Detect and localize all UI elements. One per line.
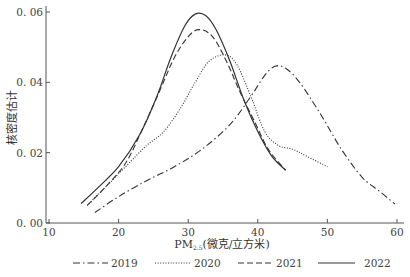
y-axis-title: 核密度估计 — [5, 90, 19, 145]
kde-line-chart: 0. 000. 020. 040. 06 102030405060 核密度估计 … — [0, 0, 410, 277]
x-tick-label: 60 — [390, 226, 403, 238]
x-tick-label: 40 — [251, 226, 264, 238]
y-tick-label: 0. 04 — [16, 76, 43, 88]
x-ticks: 102030405060 — [42, 219, 403, 238]
legend-item-2020: 2020 — [155, 257, 221, 269]
legend: 2019 2020 2021 2022 — [73, 257, 391, 269]
axes: 0. 000. 020. 040. 06 102030405060 — [16, 6, 404, 238]
y-ticks: 0. 000. 020. 040. 06 — [16, 6, 50, 229]
x-axis-title-sub: 2.5 — [193, 244, 203, 251]
legend-label: 2021 — [276, 257, 303, 269]
legend-label: 2019 — [111, 257, 138, 269]
legend-item-2022: 2022 — [318, 257, 391, 269]
x-tick-label: 50 — [321, 226, 334, 238]
x-axis-title-main: PM — [174, 238, 193, 251]
x-tick-label: 20 — [112, 226, 125, 238]
x-tick-label: 10 — [42, 226, 55, 238]
series-lines — [81, 13, 395, 212]
x-tick-label: 30 — [182, 226, 195, 238]
series-line-2019 — [95, 66, 395, 213]
x-axis-title-unit: (微克/立方米) — [202, 237, 269, 251]
legend-item-2021: 2021 — [238, 257, 303, 269]
y-tick-label: 0. 00 — [16, 217, 43, 229]
legend-label: 2020 — [194, 257, 221, 269]
y-tick-label: 0. 02 — [16, 147, 43, 159]
series-line-2021 — [87, 30, 285, 206]
legend-label: 2022 — [364, 257, 391, 269]
y-tick-label: 0. 06 — [16, 6, 43, 18]
legend-item-2019: 2019 — [73, 257, 138, 269]
series-line-2020 — [87, 55, 327, 206]
x-axis-title: PM2.5(微克/立方米) — [174, 237, 270, 251]
